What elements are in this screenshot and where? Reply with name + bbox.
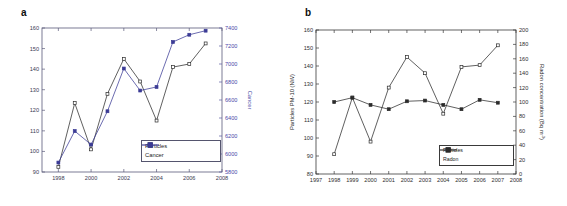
data-point-marker — [333, 153, 336, 156]
panel-a-legend: Particles Cancer — [141, 140, 221, 162]
data-point-marker — [204, 29, 207, 32]
x-tick-label: 2007 — [492, 177, 504, 183]
x-tick-label: 2000 — [364, 177, 376, 183]
series-line-radon — [334, 98, 498, 110]
data-point-marker — [405, 56, 408, 59]
data-point-marker — [478, 98, 481, 101]
y-tick-label: 90 — [33, 169, 39, 175]
data-point-marker — [460, 108, 463, 111]
y2-axis-title: Radon concentration (Bq m-3) — [539, 64, 546, 140]
data-point-marker — [204, 42, 207, 45]
y2-tick-label: 6800 — [225, 79, 237, 85]
y2-tick-label: 6600 — [225, 97, 237, 103]
data-point-marker — [171, 66, 174, 69]
y2-tick-label: 20 — [519, 157, 525, 163]
data-point-marker — [442, 103, 445, 106]
y-tick-label: 160 — [30, 25, 39, 31]
y-tick-label: 80 — [307, 171, 313, 177]
y-tick-label: 120 — [30, 107, 39, 113]
y2-tick-label: 6400 — [225, 115, 237, 121]
legend-symbol-radon — [440, 146, 457, 154]
data-point-marker — [387, 86, 390, 89]
data-point-marker — [369, 140, 372, 143]
x-tick-label: 2005 — [455, 177, 467, 183]
data-point-marker — [57, 161, 60, 164]
x-tick-label: 1998 — [328, 177, 340, 183]
data-point-marker — [106, 110, 109, 113]
x-tick-label: 1999 — [346, 177, 358, 183]
data-point-marker — [73, 102, 76, 105]
y2-tick-label: 80 — [519, 113, 525, 119]
panel-b-legend: Particles Radon — [439, 145, 514, 166]
y2-tick-label: 7000 — [225, 61, 237, 67]
data-point-marker — [405, 100, 408, 103]
y-tick-label: 130 — [30, 87, 39, 93]
panel-b-plot: 1997199819992000200120022003200420052006… — [284, 0, 567, 206]
data-point-marker — [478, 64, 481, 67]
legend-label-cancer: Cancer — [145, 151, 164, 159]
data-point-marker — [351, 96, 354, 99]
x-tick-label: 2006 — [473, 177, 485, 183]
data-point-marker — [333, 101, 336, 104]
y2-tick-label: 6000 — [225, 151, 237, 157]
data-point-marker — [122, 57, 125, 60]
data-point-marker — [171, 41, 174, 44]
x-tick-label: 1998 — [52, 175, 64, 181]
x-tick-label: 2004 — [437, 177, 449, 183]
x-tick-label: 2001 — [383, 177, 395, 183]
panel-a: a 19982000200220042006200890100110120130… — [0, 0, 284, 206]
x-tick-label: 2003 — [419, 177, 431, 183]
x-tick-label: 2002 — [118, 175, 130, 181]
figure-container: a 19982000200220042006200890100110120130… — [0, 0, 567, 206]
legend-label-radon: Radon — [443, 155, 458, 163]
data-point-marker — [387, 108, 390, 111]
y-tick-label: 150 — [304, 45, 313, 51]
y2-tick-label: 6200 — [225, 133, 237, 139]
legend-item-radon: Radon — [440, 155, 513, 164]
data-point-marker — [155, 119, 158, 122]
data-point-marker — [106, 92, 109, 95]
data-point-marker — [139, 80, 142, 83]
data-point-marker — [188, 33, 191, 36]
data-point-marker — [496, 44, 499, 47]
y-tick-label: 150 — [30, 46, 39, 52]
x-tick-label: 2006 — [183, 175, 195, 181]
x-tick-label: 2002 — [401, 177, 413, 183]
data-point-marker — [73, 130, 76, 133]
data-point-marker — [139, 89, 142, 92]
y2-tick-label: 160 — [519, 56, 528, 62]
y2-tick-label: 7400 — [225, 25, 237, 31]
y-tick-label: 100 — [304, 135, 313, 141]
data-point-marker — [90, 148, 93, 151]
legend-item-cancer: Cancer — [142, 150, 220, 159]
y2-tick-label: 140 — [519, 70, 528, 76]
x-tick-label: 2000 — [85, 175, 97, 181]
x-tick-label: 1997 — [310, 177, 322, 183]
y2-tick-label: 60 — [519, 128, 525, 134]
panel-b: b 19971998199920002001200220032004200520… — [284, 0, 567, 206]
data-point-marker — [424, 99, 427, 102]
y-tick-label: 140 — [30, 66, 39, 72]
legend-symbol-cancer — [142, 141, 159, 149]
y-tick-label: 140 — [304, 63, 313, 69]
y-tick-label: 110 — [304, 117, 313, 123]
y2-tick-label: 180 — [519, 41, 528, 47]
data-point-marker — [369, 103, 372, 106]
data-point-marker — [155, 86, 158, 89]
panel-a-plot: 1998200020022004200620089010011012013014… — [0, 0, 284, 206]
y2-tick-label: 40 — [519, 142, 525, 148]
x-tick-label: 2004 — [150, 175, 162, 181]
y2-axis-title: Cancer — [247, 91, 253, 110]
data-point-marker — [442, 112, 445, 115]
data-point-marker — [188, 63, 191, 66]
y2-tick-label: 5800 — [225, 169, 237, 175]
data-point-marker — [460, 65, 463, 68]
y-tick-label: 130 — [304, 81, 313, 87]
data-point-marker — [57, 165, 60, 168]
x-tick-label: 2008 — [216, 175, 228, 181]
y2-tick-label: 0 — [519, 171, 522, 177]
y-axis-title: Particles PM-10 (NW) — [289, 74, 295, 130]
y-tick-label: 100 — [30, 148, 39, 154]
y2-tick-label: 200 — [519, 27, 528, 33]
data-point-marker — [424, 72, 427, 75]
